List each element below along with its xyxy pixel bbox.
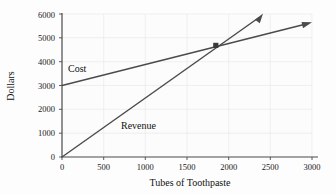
cost-series-label: Cost bbox=[68, 63, 87, 74]
y-tick-label-5000: 5000 bbox=[38, 33, 55, 43]
x-tick-label-3000: 3000 bbox=[304, 162, 321, 172]
break-even-point-marker bbox=[213, 43, 218, 48]
x-tick-label-500: 500 bbox=[97, 162, 110, 172]
revenue-series-label: Revenue bbox=[121, 120, 157, 131]
y-tick-label-6000: 6000 bbox=[38, 10, 55, 20]
y-axis-title: Dollars bbox=[5, 71, 16, 101]
x-axis-title: Tubes of Toothpaste bbox=[150, 177, 232, 188]
y-tick-label-3000: 3000 bbox=[38, 81, 55, 91]
x-axis-tick-labels: 0 500 1000 1500 2000 2500 3000 bbox=[60, 162, 321, 172]
y-tick-label-4000: 4000 bbox=[38, 57, 55, 67]
chart-figure: 0 1000 2000 3000 4000 5000 6000 0 500 10… bbox=[0, 0, 336, 194]
x-tick-label-0: 0 bbox=[60, 162, 64, 172]
y-tick-label-1000: 1000 bbox=[38, 128, 55, 138]
y-tick-label-0: 0 bbox=[51, 152, 55, 162]
break-even-chart: 0 1000 2000 3000 4000 5000 6000 0 500 10… bbox=[0, 0, 336, 194]
x-tick-label-1500: 1500 bbox=[179, 162, 196, 172]
x-tick-label-2500: 2500 bbox=[262, 162, 279, 172]
x-tick-label-1000: 1000 bbox=[137, 162, 154, 172]
y-axis-tick-labels: 0 1000 2000 3000 4000 5000 6000 bbox=[38, 10, 55, 163]
y-tick-label-2000: 2000 bbox=[38, 104, 55, 114]
x-tick-label-2000: 2000 bbox=[220, 162, 237, 172]
